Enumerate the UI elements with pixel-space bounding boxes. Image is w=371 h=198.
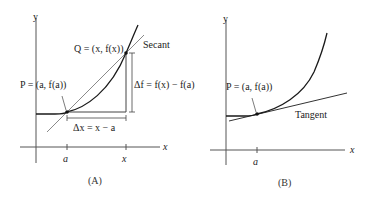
point-p-label: P = (a, f(a)) [226,81,272,93]
curve [226,33,327,116]
point-p-marker [255,112,259,116]
point-q-label: Q = (x, f(x)) [74,43,124,55]
x-axis-label: x [162,141,168,152]
tick-x-label: x [121,153,127,164]
y-axis-label: y [223,13,228,24]
point-p-leader [62,96,66,110]
panel-b: y x a P = (a, f(a)) Tangent (B) [210,13,355,189]
secant-label: Secant [143,39,170,50]
caption-a: (A) [88,175,102,187]
point-q-marker [124,51,128,55]
caption-b: (B) [278,177,291,189]
delta-x-label: Δx = x − a [73,122,116,133]
tick-a-label: a [63,153,68,164]
point-p-marker [65,110,69,114]
delta-f-label: Δf = f(x) − f(a) [134,79,194,91]
tangent-line [229,93,347,121]
tangent-label: Tangent [295,109,327,120]
curve [36,25,138,114]
figure: y x a x Δx = x − a Δf = f(x) − f(a) P = … [0,0,371,198]
point-p-label: P = (a, f(a)) [20,79,66,91]
point-p-leader [252,98,256,112]
x-axis-label: x [349,144,355,155]
y-axis-label: y [33,11,38,22]
panel-a: y x a x Δx = x − a Δf = f(x) − f(a) P = … [20,11,194,187]
tick-a-label: a [253,156,258,167]
